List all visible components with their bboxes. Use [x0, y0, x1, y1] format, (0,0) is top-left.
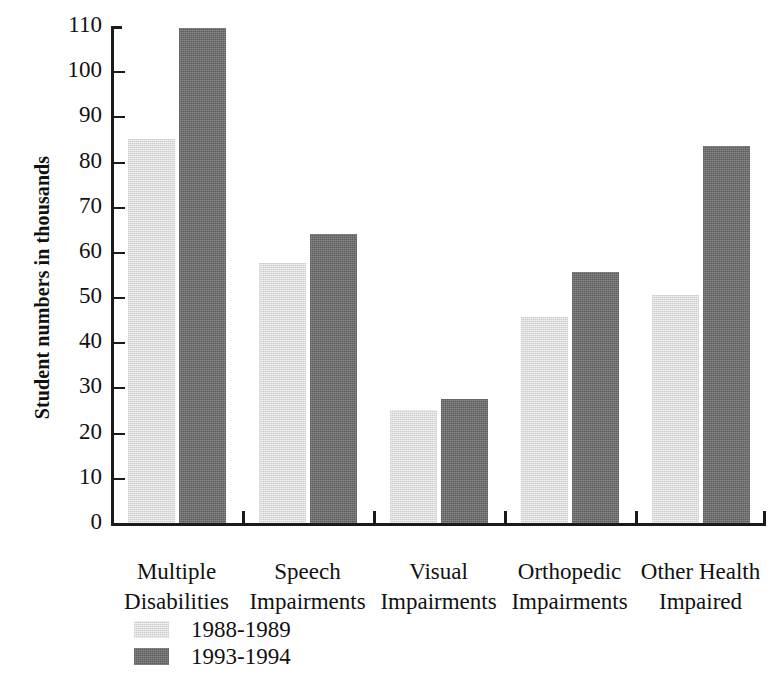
y-axis-tick-label: 50 — [44, 284, 102, 308]
category-label-line-1: Multiple — [111, 557, 242, 587]
category-label-line-2: Disabilities — [111, 587, 242, 617]
x-axis-end-cap — [763, 511, 766, 526]
x-axis-group-divider — [373, 511, 376, 526]
bar — [572, 272, 619, 523]
category-label-line-1: Speech — [242, 557, 373, 587]
bar — [390, 410, 437, 523]
bar — [310, 234, 357, 523]
x-axis-category-label: VisualImpairments — [373, 557, 504, 617]
y-axis-top-cap — [111, 26, 122, 29]
bar — [703, 146, 750, 523]
x-axis-category-label: Other HealthImpaired — [635, 557, 766, 617]
y-axis-tick-mark — [114, 207, 125, 209]
legend-item: 1988-1989 — [134, 616, 291, 643]
y-axis-tick-mark — [114, 342, 125, 344]
y-axis-tick-mark — [114, 433, 125, 435]
y-axis-tick-label: 60 — [44, 239, 102, 263]
y-axis-tick-label: 80 — [44, 149, 102, 173]
y-axis-line — [111, 26, 114, 523]
bar — [521, 317, 568, 523]
category-label-line-2: Impairments — [504, 587, 635, 617]
x-axis-category-label: MultipleDisabilities — [111, 557, 242, 617]
category-label-line-2: Impairments — [242, 587, 373, 617]
category-label-line-1: Other Health — [635, 557, 766, 587]
category-label-line-1: Orthopedic — [504, 557, 635, 587]
legend-label: 1993-1994 — [191, 644, 291, 670]
x-axis-group-divider — [242, 511, 245, 526]
bar-chart: Student numbers in thousands 11010090807… — [0, 0, 776, 688]
y-axis-tick-mark — [114, 116, 125, 118]
y-axis-tick-mark — [114, 297, 125, 299]
legend-item: 1993-1994 — [134, 643, 291, 670]
bar — [652, 295, 699, 523]
bar — [441, 399, 488, 523]
y-axis-tick-mark — [114, 387, 125, 389]
category-label-line-2: Impairments — [373, 587, 504, 617]
legend-label: 1988-1989 — [191, 617, 291, 643]
category-label-line-1: Visual — [373, 557, 504, 587]
legend-swatch — [134, 621, 169, 638]
y-axis-tick-mark — [114, 252, 125, 254]
y-axis-tick-label: 70 — [44, 194, 102, 218]
y-axis-tick-label: 20 — [44, 420, 102, 444]
y-axis-tick-label: 0 — [44, 510, 102, 534]
x-axis-group-divider — [504, 511, 507, 526]
x-axis-category-label: SpeechImpairments — [242, 557, 373, 617]
category-label-line-2: Impaired — [635, 587, 766, 617]
y-axis-tick-label: 30 — [44, 374, 102, 398]
x-axis-group-divider — [635, 511, 638, 526]
x-axis-line — [111, 523, 766, 526]
y-axis-tick-label: 100 — [44, 58, 102, 82]
legend-swatch — [134, 648, 169, 665]
y-axis-tick-mark — [114, 71, 125, 73]
y-axis-tick-label: 10 — [44, 465, 102, 489]
chart-legend: 1988-19891993-1994 — [134, 616, 291, 670]
bar — [128, 139, 175, 523]
bar — [179, 28, 226, 523]
plot-area: 1101009080706050403020100 MultipleDisabi… — [111, 26, 766, 523]
x-axis-category-label: OrthopedicImpairments — [504, 557, 635, 617]
bar — [259, 263, 306, 523]
y-axis-tick-label: 110 — [44, 13, 102, 37]
y-axis-tick-label: 40 — [44, 329, 102, 353]
y-axis-tick-mark — [114, 478, 125, 480]
y-axis-tick-mark — [114, 162, 125, 164]
y-axis-tick-label: 90 — [44, 103, 102, 127]
